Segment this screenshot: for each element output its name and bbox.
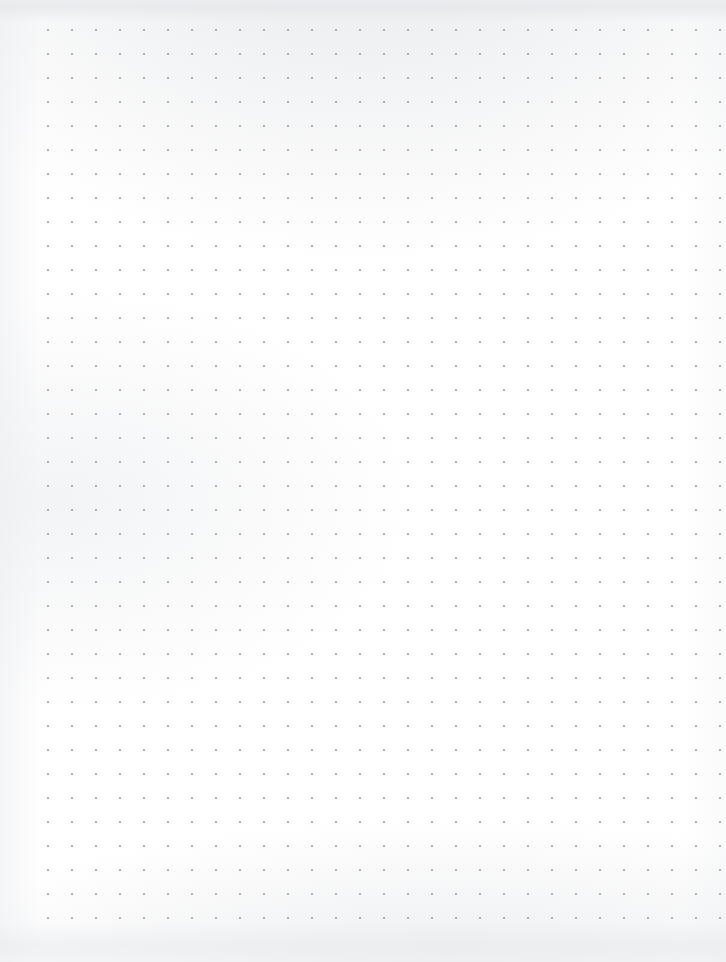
grid-dot (143, 389, 145, 391)
grid-dot (119, 77, 121, 79)
grid-dot (215, 245, 217, 247)
grid-dot (47, 629, 49, 631)
grid-dot (263, 677, 265, 679)
grid-dot (431, 413, 433, 415)
grid-dot (647, 413, 649, 415)
grid-dot (311, 125, 313, 127)
grid-dot (71, 437, 73, 439)
grid-dot (215, 701, 217, 703)
grid-dot (335, 293, 337, 295)
grid-dot (359, 125, 361, 127)
grid-dot (647, 629, 649, 631)
grid-dot (575, 581, 577, 583)
grid-dot (47, 749, 49, 751)
grid-dot (335, 509, 337, 511)
grid-dot (287, 677, 289, 679)
grid-dot (647, 269, 649, 271)
grid-dot (263, 509, 265, 511)
grid-dot (719, 29, 721, 31)
grid-dot (551, 317, 553, 319)
grid-dot (599, 581, 601, 583)
grid-dot (455, 149, 457, 151)
grid-dot (599, 869, 601, 871)
grid-dot (527, 293, 529, 295)
grid-dot (695, 149, 697, 151)
grid-dot (527, 389, 529, 391)
grid-dot (311, 869, 313, 871)
grid-dot (719, 101, 721, 103)
grid-dot (551, 509, 553, 511)
grid-dot (503, 605, 505, 607)
grid-dot (359, 173, 361, 175)
grid-dot (575, 101, 577, 103)
grid-dot (143, 893, 145, 895)
grid-dot (599, 77, 601, 79)
grid-dot (167, 77, 169, 79)
grid-dot (47, 701, 49, 703)
grid-dot (47, 797, 49, 799)
grid-dot (479, 701, 481, 703)
grid-dot (47, 509, 49, 511)
grid-dot (671, 389, 673, 391)
grid-dot (239, 29, 241, 31)
grid-dot (287, 245, 289, 247)
grid-dot (527, 101, 529, 103)
grid-dot (119, 485, 121, 487)
grid-dot (527, 29, 529, 31)
grid-dot (599, 173, 601, 175)
grid-dot (503, 653, 505, 655)
grid-dot (671, 269, 673, 271)
grid-dot (671, 29, 673, 31)
grid-dot (167, 173, 169, 175)
grid-dot (47, 413, 49, 415)
grid-dot (287, 701, 289, 703)
grid-dot (95, 101, 97, 103)
grid-dot (599, 557, 601, 559)
grid-dot (383, 365, 385, 367)
grid-dot (143, 797, 145, 799)
grid-dot (671, 917, 673, 919)
grid-dot (527, 53, 529, 55)
grid-dot (599, 653, 601, 655)
grid-dot (359, 581, 361, 583)
grid-dot (47, 437, 49, 439)
grid-dot (71, 557, 73, 559)
grid-dot (47, 653, 49, 655)
grid-dot (383, 485, 385, 487)
grid-dot (599, 437, 601, 439)
grid-dot (599, 917, 601, 919)
grid-dot (695, 125, 697, 127)
grid-dot (95, 77, 97, 79)
grid-dot (215, 869, 217, 871)
grid-dot (479, 557, 481, 559)
grid-dot (671, 845, 673, 847)
grid-dot (503, 173, 505, 175)
grid-dot (143, 149, 145, 151)
grid-dot (527, 413, 529, 415)
grid-dot (407, 101, 409, 103)
grid-dot (575, 845, 577, 847)
grid-dot (47, 149, 49, 151)
grid-dot (527, 725, 529, 727)
grid-dot (71, 629, 73, 631)
grid-dot (695, 701, 697, 703)
grid-dot (143, 485, 145, 487)
grid-dot (647, 653, 649, 655)
grid-dot (383, 893, 385, 895)
grid-dot (551, 485, 553, 487)
grid-dot (311, 605, 313, 607)
grid-dot (119, 29, 121, 31)
grid-dot (383, 509, 385, 511)
grid-dot (551, 437, 553, 439)
grid-dot (359, 749, 361, 751)
grid-dot (623, 509, 625, 511)
grid-dot (335, 101, 337, 103)
grid-dot (359, 317, 361, 319)
grid-dot (287, 149, 289, 151)
grid-dot (311, 797, 313, 799)
grid-dot (311, 701, 313, 703)
grid-dot (191, 773, 193, 775)
grid-dot (47, 893, 49, 895)
grid-dot (47, 101, 49, 103)
grid-dot (119, 557, 121, 559)
